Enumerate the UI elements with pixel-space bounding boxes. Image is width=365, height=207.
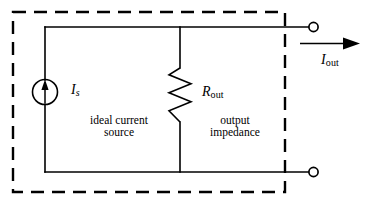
- current-source-symbol-label: Is: [71, 82, 80, 99]
- output-current-subscript: out: [326, 57, 339, 68]
- current-source-caption-line2: source: [90, 126, 148, 138]
- resistor-symbol-label: Rout: [202, 84, 224, 101]
- top-output-terminal-icon: [309, 22, 318, 31]
- resistor-symbol-letter: R: [202, 84, 211, 99]
- resistor-symbol-subscript: out: [211, 89, 224, 100]
- current-source-symbol-subscript: s: [76, 87, 80, 98]
- output-current-label: Iout: [321, 52, 339, 69]
- circuit-schematic-svg: [0, 0, 365, 207]
- resistor-zigzag-icon: [169, 68, 191, 122]
- bottom-output-terminal-icon: [309, 167, 318, 176]
- resistor-caption: output impedance: [210, 114, 260, 139]
- current-source-caption: ideal current source: [90, 114, 148, 139]
- resistor-caption-line1: output: [210, 114, 260, 126]
- current-source-arrowhead-icon: [41, 80, 48, 91]
- circuit-diagram-figure: Is ideal current source Rout output impe…: [0, 0, 365, 207]
- current-source-caption-line1: ideal current: [90, 114, 148, 126]
- output-current-arrowhead-icon: [343, 38, 360, 50]
- dashed-boundary-rect: [13, 12, 285, 192]
- resistor-caption-line2: impedance: [210, 126, 260, 138]
